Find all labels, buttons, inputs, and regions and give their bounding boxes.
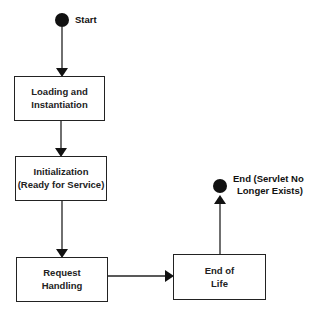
end-label-line1: End (Servlet No — [233, 173, 304, 184]
start-circle-icon — [55, 13, 69, 27]
arrow-down-icon — [56, 249, 68, 258]
node-end-of-life: End of Life — [174, 255, 266, 300]
arrow-right-icon — [165, 270, 174, 282]
edge-loading-to-init — [55, 121, 67, 157]
arrow-down-icon — [56, 68, 68, 77]
start-label: Start — [75, 14, 97, 25]
node-eol-line1: End of — [205, 265, 235, 276]
arrow-up-icon — [214, 195, 226, 204]
servlet-lifecycle-diagram: Start Loading and Instantiation Initiali… — [0, 0, 310, 313]
node-init-line1: Initialization — [34, 166, 89, 177]
end-label-line2: Longer Exists) — [237, 185, 303, 196]
end-node: End (Servlet No Longer Exists) — [213, 173, 304, 196]
node-eol-line2: Life — [211, 278, 228, 289]
node-request-line1: Request — [43, 267, 81, 278]
edge-eol-to-end — [214, 195, 226, 254]
arrow-down-icon — [55, 148, 67, 157]
edge-init-to-request — [56, 201, 68, 258]
node-loading-line1: Loading and — [31, 86, 88, 97]
node-request-line2: Handling — [42, 280, 83, 291]
start-node: Start — [55, 13, 97, 27]
node-request-handling: Request Handling — [17, 258, 108, 302]
edge-request-to-eol — [108, 270, 174, 282]
node-init-line2: (Ready for Service) — [18, 179, 105, 190]
edge-start-to-loading — [56, 27, 68, 77]
node-loading-instantiation: Loading and Instantiation — [15, 77, 105, 121]
node-loading-line2: Instantiation — [31, 99, 88, 110]
node-initialization: Initialization (Ready for Service) — [16, 157, 107, 201]
end-circle-icon — [213, 179, 227, 193]
